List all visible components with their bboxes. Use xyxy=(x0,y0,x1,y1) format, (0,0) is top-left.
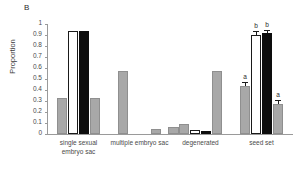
y-axis-tick-label: 0.5 xyxy=(33,74,42,81)
error-bar-cap xyxy=(264,30,270,31)
bar xyxy=(151,129,162,135)
bar xyxy=(118,71,129,134)
y-axis-tick-label: 0.8 xyxy=(33,41,42,48)
bar xyxy=(68,31,79,134)
error-bar-cap xyxy=(253,31,259,32)
y-axis-tick-label: 0.3 xyxy=(33,96,42,103)
y-axis-label: Proportion xyxy=(8,21,17,93)
bar xyxy=(262,33,273,134)
y-axis-tick-label: 0.4 xyxy=(33,85,42,92)
bar xyxy=(179,124,190,134)
y-axis-tick-label: 1 xyxy=(38,19,42,26)
bar xyxy=(240,86,251,134)
y-axis-tick-label: 0.2 xyxy=(33,107,42,114)
significance-label: a xyxy=(239,73,251,80)
bar xyxy=(57,98,68,134)
plot-area: abba xyxy=(48,24,292,134)
y-axis-tick-mark xyxy=(45,134,48,135)
bar xyxy=(212,71,223,134)
bar xyxy=(90,98,101,134)
bar xyxy=(201,131,212,134)
y-axis-tick-label: 0.7 xyxy=(33,52,42,59)
bar xyxy=(251,35,262,134)
y-axis-tick-label: 0.6 xyxy=(33,63,42,70)
significance-label: b xyxy=(261,21,273,28)
error-bar-cap xyxy=(275,100,281,101)
x-axis-category-label: seed set xyxy=(224,139,299,148)
y-axis-tick-label: 0.9 xyxy=(33,30,42,37)
panel-label: B xyxy=(24,3,30,12)
x-axis-line xyxy=(47,134,293,135)
error-bar-cap xyxy=(242,82,248,83)
bar xyxy=(190,130,201,134)
bar xyxy=(273,104,284,134)
bar xyxy=(168,127,179,134)
chart-container: B Proportion 00.10.20.30.40.50.60.70.80.… xyxy=(0,0,298,173)
y-axis-tick-label: 0.1 xyxy=(33,118,42,125)
y-axis-tick-label: 0 xyxy=(38,129,42,136)
bar xyxy=(79,31,90,134)
significance-label: a xyxy=(272,91,284,98)
